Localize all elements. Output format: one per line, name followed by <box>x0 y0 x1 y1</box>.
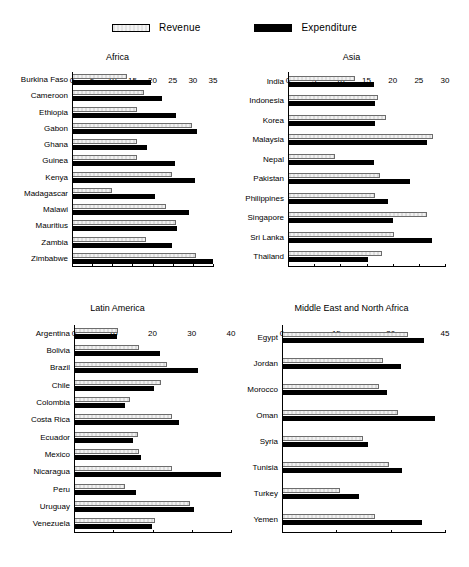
chart-legend: Revenue Expenditure <box>0 22 469 33</box>
bar-group: Ghana <box>72 137 213 153</box>
bar-group: Zambia <box>72 235 213 251</box>
bar-group: Oman <box>282 403 445 429</box>
bar-group: Yemen <box>282 507 445 533</box>
bar-expenditure <box>73 145 147 150</box>
bar-group: Gabon <box>72 121 213 137</box>
bar-expenditure <box>73 96 162 101</box>
category-label: India <box>267 78 284 86</box>
category-label: Uruguay <box>40 503 70 511</box>
bar-expenditure <box>289 257 368 262</box>
legend-label-expenditure: Expenditure <box>301 22 357 33</box>
bar-expenditure <box>289 121 375 126</box>
bar-expenditure <box>283 390 387 395</box>
category-label: Nepal <box>263 156 284 164</box>
bar-revenue <box>73 90 144 95</box>
bar-group: Zimbabwe <box>72 251 213 267</box>
bar-expenditure <box>75 334 117 339</box>
bar-expenditure <box>73 178 195 183</box>
bar-group: Morocco <box>282 377 445 403</box>
bar-revenue <box>75 380 161 385</box>
bar-revenue <box>73 204 166 209</box>
bar-revenue <box>75 328 118 333</box>
category-label: Brazil <box>50 364 70 372</box>
bar-group: Indonesia <box>288 92 445 112</box>
bar-revenue <box>289 193 375 198</box>
bar-revenue <box>283 462 389 467</box>
bar-group: Egypt <box>282 325 445 351</box>
category-label: Ghana <box>44 141 68 149</box>
bar-expenditure <box>289 238 432 243</box>
bar-group: Ethiopia <box>72 105 213 121</box>
bar-revenue <box>75 397 130 402</box>
bar-group: Costa Rica <box>74 412 231 429</box>
bar-revenue <box>283 514 375 519</box>
bar-expenditure <box>283 442 368 447</box>
bar-group: Burkina Faso <box>72 72 213 88</box>
bar-revenue <box>289 232 394 237</box>
bar-expenditure <box>73 243 172 248</box>
category-label: Singapore <box>248 214 284 222</box>
bar-expenditure <box>289 218 393 223</box>
revenue-swatch-icon <box>112 24 150 32</box>
plot-area-asia: 051015202530IndiaIndonesiaKoreaMalaysiaN… <box>288 72 445 267</box>
bar-expenditure <box>289 140 427 145</box>
panel-latin-america: Latin America010203040ArgentinaBoliviaBr… <box>0 303 235 558</box>
bar-expenditure <box>75 420 179 425</box>
category-label: Egypt <box>258 334 278 342</box>
category-label: Oman <box>256 412 278 420</box>
bar-expenditure <box>73 80 151 85</box>
bar-revenue <box>75 518 155 523</box>
bar-expenditure <box>289 199 388 204</box>
bar-revenue <box>283 358 383 363</box>
panel-title-asia: Asia <box>234 52 469 62</box>
bar-expenditure <box>75 455 141 460</box>
bar-expenditure <box>75 472 221 477</box>
panel-title-middle-east-and-north-africa: Middle East and North Africa <box>234 303 469 313</box>
bar-expenditure <box>73 259 213 264</box>
bar-revenue <box>289 115 386 120</box>
bar-group: Malaysia <box>288 131 445 151</box>
bar-expenditure <box>75 351 160 356</box>
bar-revenue <box>75 414 172 419</box>
bar-revenue <box>283 384 379 389</box>
panel-asia: Asia051015202530IndiaIndonesiaKoreaMalay… <box>234 52 469 284</box>
bar-revenue <box>289 134 433 139</box>
plot-area-middle-east-and-north-africa: 0153045EgyptJordanMoroccoOmanSyriaTunisi… <box>282 325 445 533</box>
bar-revenue <box>73 237 146 242</box>
bar-group: Thailand <box>288 248 445 268</box>
bar-expenditure <box>75 368 198 373</box>
bar-revenue <box>75 345 139 350</box>
category-label: Cameroon <box>31 92 68 100</box>
bar-group: Mauritius <box>72 218 213 234</box>
category-label: Nicaragua <box>34 468 70 476</box>
bar-expenditure <box>75 386 154 391</box>
category-label: Gabon <box>44 125 68 133</box>
bar-group: Madagascar <box>72 186 213 202</box>
category-label: Syria <box>260 438 278 446</box>
bar-group: Pakistan <box>288 170 445 190</box>
bar-group: Cameroon <box>72 88 213 104</box>
bar-revenue <box>289 76 355 81</box>
bar-group: Nicaragua <box>74 464 231 481</box>
bar-expenditure <box>75 524 152 529</box>
bar-group: Syria <box>282 429 445 455</box>
bar-revenue <box>289 251 382 256</box>
category-label: Morocco <box>247 386 278 394</box>
bar-revenue <box>73 188 112 193</box>
category-label: Philippines <box>245 195 284 203</box>
bar-group: Bolivia <box>74 342 231 359</box>
bar-expenditure <box>283 520 422 525</box>
bar-group: Mexico <box>74 446 231 463</box>
bar-group: Philippines <box>288 189 445 209</box>
bar-group: Jordan <box>282 351 445 377</box>
panel-africa: Africa05101520253035Burkina FasoCameroon… <box>0 52 235 284</box>
panel-middle-east-north-africa: Middle East and North Africa0153045Egypt… <box>234 303 469 558</box>
category-label: Pakistan <box>253 175 284 183</box>
bar-revenue <box>75 484 125 489</box>
bar-expenditure <box>75 490 136 495</box>
panel-title-africa: Africa <box>0 52 235 62</box>
bar-revenue <box>283 410 398 415</box>
chart-figure: Revenue Expenditure Africa05101520253035… <box>0 0 469 567</box>
bar-group: India <box>288 72 445 92</box>
expenditure-swatch-icon <box>254 24 292 32</box>
